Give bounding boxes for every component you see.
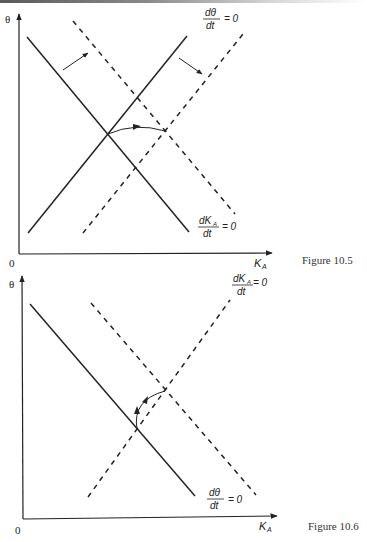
y-axis [22, 276, 23, 519]
y-axis-label: θ [9, 278, 14, 290]
svg-text:K: K [259, 520, 267, 532]
x-axis-label: K A [259, 520, 272, 533]
k-nullcline-shifted [73, 21, 235, 214]
svg-text:A: A [246, 279, 251, 285]
theta-nullcline [30, 304, 195, 496]
svg-text:dθ: dθ [205, 7, 217, 18]
svg-text:dθ: dθ [209, 487, 221, 498]
figure-caption: Figure 10.6 [308, 520, 359, 532]
svg-text:= 0: = 0 [222, 221, 237, 232]
svg-text:dK: dK [233, 273, 247, 284]
svg-text:= 0: = 0 [224, 13, 239, 24]
shift-arrow-right [179, 58, 202, 74]
k-nullcline-label: dK A dt = 0 [198, 215, 237, 239]
origin-label: 0 [9, 257, 15, 269]
origin-label: 0 [15, 524, 21, 536]
svg-text:K: K [254, 257, 262, 269]
figure-caption: Figure 10.5 [302, 254, 353, 266]
diagram-canvas: θ 0 K A Figure 10.5 dθ dt = 0 dK A dt = … [0, 0, 367, 542]
y-axis-label: θ [5, 13, 10, 25]
svg-text:A: A [212, 221, 217, 227]
shift-arrow-left [63, 53, 88, 70]
k-nullcline-label: dK A dt = 0 [232, 273, 268, 297]
figure-10-5: θ 0 K A Figure 10.5 dθ dt = 0 dK A dt = … [5, 7, 353, 270]
x-axis-label: K A [254, 257, 267, 270]
svg-text:= 0: = 0 [253, 277, 268, 288]
svg-text:dK: dK [199, 215, 213, 226]
theta-nullcline-label: dθ dt = 0 [203, 7, 239, 31]
k-nullcline-shifted-down [91, 303, 256, 495]
theta-nullcline-label: dθ dt = 0 [207, 487, 243, 511]
svg-text:A: A [261, 263, 267, 270]
svg-text:= 0: = 0 [228, 494, 243, 505]
x-axis [23, 516, 277, 519]
svg-text:dt: dt [210, 500, 220, 511]
svg-text:dt: dt [206, 20, 216, 31]
figure-10-6: θ 0 K A Figure 10.6 dK A dt = 0 dθ dt = … [9, 273, 359, 536]
k-nullcline-shifted-up [88, 300, 230, 497]
x-axis [19, 253, 272, 254]
svg-text:dt: dt [203, 228, 213, 239]
theta-nullcline-initial [28, 36, 187, 233]
svg-text:dt: dt [237, 286, 247, 297]
svg-text:A: A [266, 526, 272, 533]
